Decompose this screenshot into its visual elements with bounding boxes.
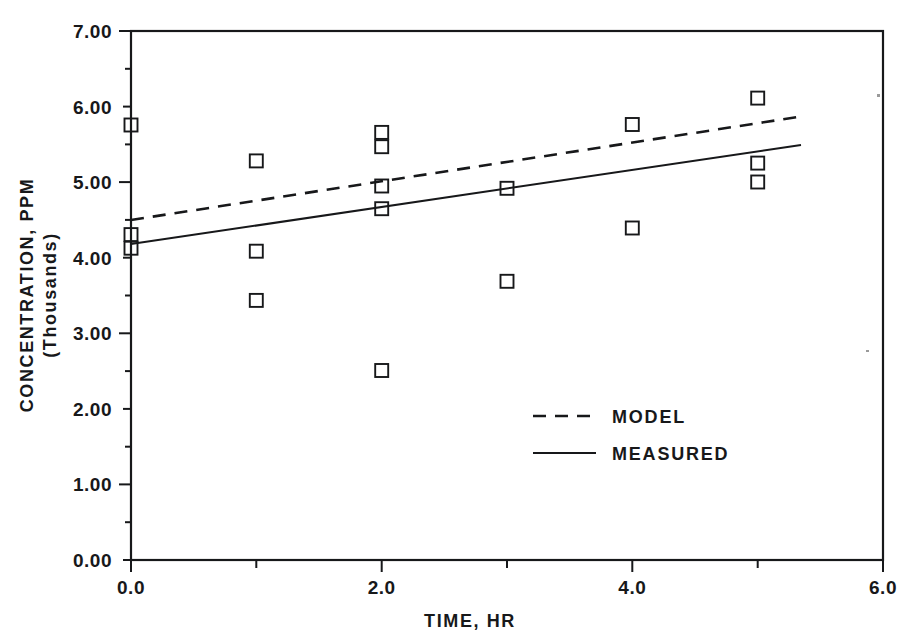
series-line-model — [131, 117, 801, 221]
y-tick-label: 7.00 — [73, 21, 112, 42]
y-tick-label: 3.00 — [73, 323, 112, 344]
data-point-marker — [751, 157, 764, 170]
data-point-marker — [501, 275, 514, 288]
scan-speck — [877, 94, 880, 97]
x-axis-tick-labels: 0.0 2.0 4.0 6.0 — [117, 577, 897, 598]
data-point-marker — [375, 140, 388, 153]
data-point-marker — [250, 294, 263, 307]
scatter-markers — [125, 92, 765, 377]
legend-label-model: MODEL — [612, 407, 686, 427]
chart-legend: MODEL MEASURED — [533, 407, 729, 464]
data-point-marker — [375, 126, 388, 139]
y-tick-label: 5.00 — [73, 172, 112, 193]
data-point-marker — [375, 202, 388, 215]
data-point-marker — [626, 222, 639, 235]
x-axis-ticks — [131, 560, 883, 572]
scan-speck-group — [866, 94, 880, 352]
scan-speck — [866, 350, 869, 352]
y-tick-label: 1.00 — [73, 474, 112, 495]
y-axis-ticks — [119, 31, 131, 560]
chart-figure: 7.00 6.00 5.00 4.00 3.00 2.00 1.00 0.00 … — [0, 0, 914, 638]
y-axis-tick-labels: 7.00 6.00 5.00 4.00 3.00 2.00 1.00 0.00 — [73, 21, 112, 571]
legend-label-measured: MEASURED — [612, 444, 729, 464]
x-tick-label: 0.0 — [117, 577, 145, 598]
y-tick-label: 0.00 — [73, 550, 112, 571]
scatter-plot-svg: 7.00 6.00 5.00 4.00 3.00 2.00 1.00 0.00 … — [0, 0, 914, 638]
x-tick-label: 6.0 — [869, 577, 897, 598]
x-tick-label: 4.0 — [618, 577, 646, 598]
x-tick-label: 2.0 — [368, 577, 396, 598]
y-tick-label: 6.00 — [73, 97, 112, 118]
series-line-measured — [131, 145, 801, 244]
y-axis-title-line2: (Thousands) — [40, 232, 60, 358]
y-axis-title-line1: CONCENTRATION, PPM — [17, 178, 37, 412]
data-point-marker — [751, 176, 764, 189]
data-point-marker — [250, 154, 263, 167]
y-tick-label: 4.00 — [73, 248, 112, 269]
data-point-marker — [250, 245, 263, 258]
data-point-marker — [375, 364, 388, 377]
y-tick-label: 2.00 — [73, 399, 112, 420]
data-point-marker — [626, 118, 639, 131]
data-point-marker — [751, 92, 764, 105]
x-axis-title: TIME, HR — [424, 611, 516, 631]
plot-frame — [131, 31, 883, 560]
